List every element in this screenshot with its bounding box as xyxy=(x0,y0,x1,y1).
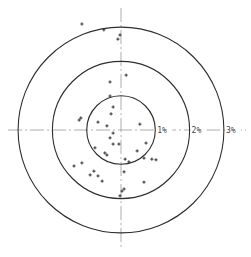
data-point xyxy=(122,187,125,190)
data-point xyxy=(80,161,83,164)
data-point xyxy=(112,142,115,145)
data-point xyxy=(96,121,99,124)
data-point xyxy=(108,80,111,83)
data-point xyxy=(105,124,108,127)
data-point xyxy=(105,153,108,156)
data-point xyxy=(78,118,81,121)
data-point xyxy=(96,174,99,177)
data-point xyxy=(79,116,82,119)
data-points xyxy=(72,22,157,197)
data-point xyxy=(108,136,111,139)
ring-label-2pct: 2% xyxy=(192,126,202,135)
data-point xyxy=(117,142,120,145)
data-point xyxy=(109,112,112,115)
data-point xyxy=(112,105,115,108)
data-point xyxy=(92,170,95,173)
data-point xyxy=(125,74,128,77)
data-point xyxy=(142,181,145,184)
data-point xyxy=(144,141,147,144)
data-point xyxy=(89,173,92,176)
axes xyxy=(8,8,246,250)
data-point xyxy=(150,158,153,161)
data-point xyxy=(124,158,127,161)
data-point xyxy=(101,180,104,183)
data-point xyxy=(154,158,157,161)
target-scatter-chart: 1%2%3% xyxy=(0,0,251,257)
data-point xyxy=(138,123,141,126)
data-point xyxy=(122,170,125,173)
data-point xyxy=(93,146,96,149)
data-point xyxy=(136,149,139,152)
data-point xyxy=(72,164,75,167)
ring-labels: 1%2%3% xyxy=(156,125,241,135)
data-point xyxy=(116,38,119,41)
data-point xyxy=(103,151,106,154)
data-point xyxy=(112,131,115,134)
ring-label-1pct: 1% xyxy=(157,126,167,135)
data-point xyxy=(80,22,83,25)
ring-label-3pct: 3% xyxy=(226,126,236,135)
